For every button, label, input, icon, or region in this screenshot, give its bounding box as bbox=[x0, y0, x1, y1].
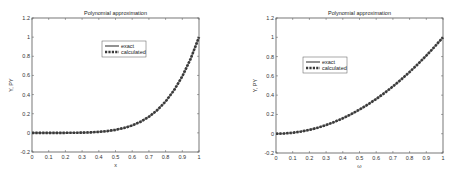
x-tick-label: 1 bbox=[197, 154, 200, 160]
x-tick-label: 0.4 bbox=[339, 155, 347, 161]
y-tick-label: 0.2 bbox=[266, 111, 274, 117]
y-tick-label: 0.8 bbox=[22, 53, 30, 59]
y-tick-label: -0.2 bbox=[21, 149, 30, 155]
x-axis-label: ω bbox=[357, 163, 362, 169]
x-tick-label: 0.3 bbox=[78, 154, 86, 160]
x-axis-label: x bbox=[114, 162, 117, 168]
y-tick-label: 0 bbox=[271, 131, 274, 137]
y-tick-label: 0.8 bbox=[266, 54, 274, 60]
x-tick-label: 0.8 bbox=[406, 155, 414, 161]
chart-title: Polynomial approximation bbox=[328, 10, 391, 16]
y-axis-label: Y, PY bbox=[8, 78, 14, 92]
x-tick-label: 1 bbox=[441, 155, 444, 161]
x-tick-label: 0.7 bbox=[145, 154, 153, 160]
x-tick-label: 0.1 bbox=[45, 154, 53, 160]
y-tick-label: 0.4 bbox=[22, 92, 30, 98]
x-tick-label: 0.4 bbox=[95, 154, 103, 160]
legend-label-calculated: calculated bbox=[322, 65, 347, 71]
x-tick-label: 0.3 bbox=[322, 155, 330, 161]
y-tick-label: 1.2 bbox=[22, 15, 30, 21]
x-tick-label: 0.1 bbox=[289, 155, 297, 161]
y-axis-label: Y, PY bbox=[252, 78, 258, 92]
y-tick-label: 0 bbox=[27, 130, 30, 136]
x-tick-label: 0.2 bbox=[62, 154, 70, 160]
chart-left: Polynomial approximation00.10.20.30.40.5… bbox=[8, 10, 201, 168]
legend-label-calculated: calculated bbox=[121, 49, 146, 55]
x-tick-label: 0.9 bbox=[178, 154, 186, 160]
x-tick-label: 0 bbox=[274, 155, 277, 161]
x-tick-label: 0.6 bbox=[372, 155, 380, 161]
y-tick-label: 1.2 bbox=[266, 15, 274, 21]
chart-right: Polynomial approximation00.10.20.30.40.5… bbox=[252, 10, 445, 169]
x-tick-label: 0 bbox=[30, 154, 33, 160]
x-tick-label: 0.6 bbox=[128, 154, 136, 160]
x-tick-label: 0.2 bbox=[306, 155, 314, 161]
y-tick-label: 1 bbox=[271, 34, 274, 40]
x-tick-label: 0.7 bbox=[389, 155, 397, 161]
y-tick-label: -0.2 bbox=[265, 150, 274, 156]
x-tick-label: 0.8 bbox=[162, 154, 170, 160]
x-tick-label: 0.5 bbox=[112, 154, 120, 160]
x-tick-label: 0.5 bbox=[356, 155, 364, 161]
y-tick-label: 0.6 bbox=[266, 73, 274, 79]
y-tick-label: 1 bbox=[27, 34, 30, 40]
x-tick-label: 0.9 bbox=[422, 155, 430, 161]
charts-canvas: Polynomial approximation00.10.20.30.40.5… bbox=[0, 0, 458, 173]
y-tick-label: 0.2 bbox=[22, 111, 30, 117]
y-tick-label: 0.4 bbox=[266, 92, 274, 98]
y-tick-label: 0.6 bbox=[22, 72, 30, 78]
chart-title: Polynomial approximation bbox=[84, 10, 147, 16]
